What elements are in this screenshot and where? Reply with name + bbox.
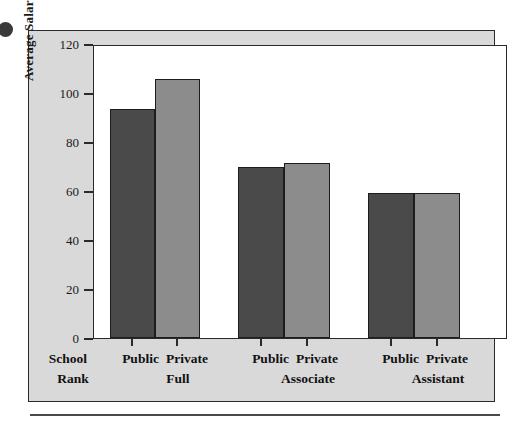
x-tick-full-private: [176, 339, 178, 346]
x-group-assistant: PublicPrivate Assistant: [359, 349, 491, 389]
y-tick-120-label: 120: [60, 37, 85, 53]
x-group-full: PublicPrivate Full: [101, 349, 229, 389]
y-tick-20: 20: [66, 283, 93, 297]
x-tick-associate-public: [260, 339, 262, 346]
bar-associate-public: [238, 167, 284, 338]
bar-assistant-private: [414, 193, 460, 338]
y-tick-80-label: 80: [66, 135, 84, 151]
y-tick-40-mark: [84, 240, 93, 242]
figure-page: Average Salary ($ Thousands) 120 100 80 …: [0, 0, 520, 427]
bar-full-private: [155, 79, 200, 338]
x-label-full-public: Public: [122, 351, 159, 366]
y-tick-0-label: 0: [73, 331, 85, 347]
y-axis-ticks: 120 100 80 60 40 20 0: [29, 31, 93, 401]
x-label-assistant-private: Private: [426, 351, 468, 366]
x-group-full-pairs: PublicPrivate: [101, 349, 229, 369]
scan-artifact-dot: [0, 22, 13, 37]
chart-figure-frame: Average Salary ($ Thousands) 120 100 80 …: [28, 30, 495, 402]
y-tick-60-label: 60: [66, 184, 84, 200]
y-tick-120: 120: [60, 38, 94, 52]
rank-header-line2: Rank: [37, 369, 99, 389]
bar-assistant-public: [368, 193, 414, 338]
y-tick-0: 0: [73, 332, 94, 346]
y-tick-80: 80: [66, 136, 93, 150]
bars-layer: [94, 46, 506, 338]
y-tick-60-mark: [84, 191, 93, 193]
y-tick-100-label: 100: [60, 86, 85, 102]
y-tick-20-mark: [84, 289, 93, 291]
x-axis-ticks: [93, 339, 507, 347]
x-axis-rank-header: School Rank: [37, 349, 99, 389]
y-tick-100-mark: [84, 93, 93, 95]
x-tick-assistant-public: [390, 339, 392, 346]
x-group-full-name: Full: [101, 369, 229, 389]
bar-associate-private: [284, 163, 330, 338]
x-group-associate: PublicPrivate Associate: [229, 349, 361, 389]
y-tick-20-label: 20: [66, 282, 84, 298]
y-tick-80-mark: [84, 142, 93, 144]
x-tick-assistant-private: [436, 339, 438, 346]
x-label-associate-public: Public: [252, 351, 289, 366]
x-group-assistant-name: Assistant: [359, 369, 491, 389]
x-group-associate-name: Associate: [229, 369, 361, 389]
x-axis-labels: School Rank PublicPrivate Full PublicPri…: [29, 347, 496, 403]
x-label-assistant-public: Public: [382, 351, 419, 366]
y-tick-40-label: 40: [66, 233, 84, 249]
x-tick-full-public: [131, 339, 133, 346]
bottom-divider-rule: [30, 414, 500, 416]
y-tick-100: 100: [60, 87, 94, 101]
x-label-full-private: Private: [166, 351, 208, 366]
y-tick-60: 60: [66, 185, 93, 199]
x-tick-associate-private: [306, 339, 308, 346]
y-tick-40: 40: [66, 234, 93, 248]
x-group-assistant-pairs: PublicPrivate: [359, 349, 491, 369]
bar-full-public: [110, 109, 155, 338]
rank-header-line1: School: [37, 349, 99, 369]
x-label-associate-private: Private: [296, 351, 338, 366]
y-tick-0-mark: [84, 338, 93, 340]
x-group-associate-pairs: PublicPrivate: [229, 349, 361, 369]
y-tick-120-mark: [84, 44, 93, 46]
plot-area: [93, 45, 507, 339]
